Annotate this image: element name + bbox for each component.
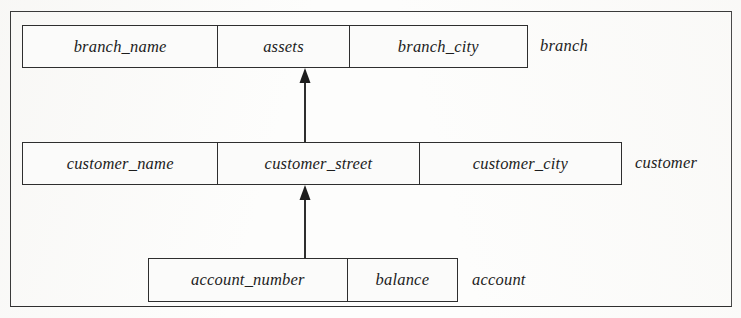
relation-label-customer: customer: [635, 153, 697, 173]
dependency-arrow-account-to-customer: [298, 185, 312, 258]
relation-row-account: account_number balance: [148, 258, 458, 302]
dependency-arrow-customer-to-branch: [298, 68, 312, 142]
attribute-cell-branch-city: branch_city: [350, 26, 527, 67]
attribute-cell-customer-name: customer_name: [23, 143, 218, 184]
attribute-cell-balance: balance: [348, 259, 457, 301]
attribute-cell-assets: assets: [218, 26, 349, 67]
attribute-cell-account-number: account_number: [149, 259, 348, 301]
attribute-cell-customer-city: customer_city: [420, 143, 621, 184]
relation-label-account: account: [472, 270, 526, 290]
schema-diagram-figure: branch_name assets branch_city branch cu…: [0, 0, 741, 318]
relation-label-branch: branch: [540, 36, 588, 56]
attribute-cell-branch-name: branch_name: [23, 26, 218, 67]
relation-row-branch: branch_name assets branch_city: [22, 25, 528, 68]
attribute-cell-customer-street: customer_street: [218, 143, 419, 184]
relation-row-customer: customer_name customer_street customer_c…: [22, 142, 622, 185]
